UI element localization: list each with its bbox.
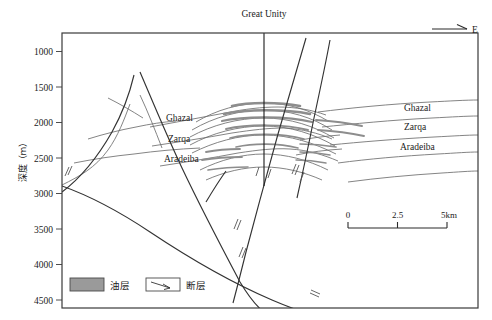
svg-text:2000: 2000 xyxy=(34,118,53,128)
svg-text:Aradeiba: Aradeiba xyxy=(164,154,200,164)
svg-text:Zarqa: Zarqa xyxy=(404,122,427,132)
svg-text:Aradeiba: Aradeiba xyxy=(400,142,436,152)
svg-text:Ghazal: Ghazal xyxy=(166,113,193,123)
cross-section-figure: 深度（m） 1000 1500 2000 2500 3000 3500 4000… xyxy=(0,0,492,320)
scale-tick-mid: 2.5 xyxy=(392,210,404,220)
well-label: Great Unity xyxy=(241,9,286,19)
scale-tick-max: 5km xyxy=(441,210,457,220)
svg-text:Zarqa: Zarqa xyxy=(168,134,191,144)
legend-fault-label: 断层 xyxy=(186,280,206,291)
figure-root: 深度（m） 1000 1500 2000 2500 3000 3500 4000… xyxy=(0,0,492,320)
svg-text:4000: 4000 xyxy=(34,260,53,270)
direction-label: E xyxy=(472,25,478,35)
legend-oil-label: 油层 xyxy=(110,280,130,291)
y-axis-title: 深度（m） xyxy=(17,138,28,183)
svg-text:3500: 3500 xyxy=(34,225,53,235)
svg-text:1000: 1000 xyxy=(34,47,53,57)
svg-text:3000: 3000 xyxy=(34,189,53,199)
svg-text:2500: 2500 xyxy=(34,154,53,164)
legend-oil-swatch xyxy=(70,278,104,291)
scale-tick-0: 0 xyxy=(346,210,351,220)
svg-text:1500: 1500 xyxy=(34,83,53,93)
figure-background xyxy=(0,0,492,320)
svg-text:4500: 4500 xyxy=(34,296,53,306)
svg-text:Ghazal: Ghazal xyxy=(404,103,431,113)
